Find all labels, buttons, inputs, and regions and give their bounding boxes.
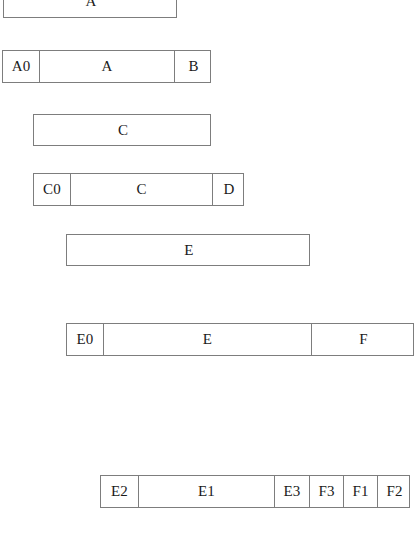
bar-segment-label: E (203, 332, 212, 347)
bar-segment-label: F2 (386, 484, 402, 499)
bar-segment-label: C0 (43, 182, 61, 197)
bar-segment-label: D (223, 182, 234, 197)
bar-segment-label: A (101, 59, 112, 74)
bar-segment-e[interactable]: E (103, 324, 311, 355)
bar-segment-label: C (118, 123, 128, 138)
bar-segment-label: B (188, 59, 198, 74)
bar-segment-a[interactable]: A (4, 0, 178, 17)
bar-segment-c[interactable]: C (70, 174, 212, 205)
bar-segment-b[interactable]: B (174, 51, 212, 82)
bar-segment-label: E0 (76, 332, 93, 347)
bar-segment-e3[interactable]: E3 (274, 476, 309, 507)
bar-segment-label: E2 (111, 484, 128, 499)
bar-segment-e[interactable]: E (67, 235, 311, 265)
bar-segment-a0[interactable]: A0 (3, 51, 39, 82)
bar-segment-e1[interactable]: E1 (138, 476, 274, 507)
row-e-whole: E (66, 234, 310, 266)
bar-segment-label: E1 (198, 484, 215, 499)
bar-segment-c0[interactable]: C0 (34, 174, 70, 205)
bar-segment-c[interactable]: C (34, 115, 212, 145)
row-c-split: C0CD (33, 173, 244, 206)
bar-segment-f2[interactable]: F2 (377, 476, 411, 507)
bar-segment-f3[interactable]: F3 (309, 476, 343, 507)
bar-segment-label: A0 (12, 59, 31, 74)
row-c-whole: C (33, 114, 211, 146)
bar-segment-e2[interactable]: E2 (101, 476, 138, 507)
bar-segment-f[interactable]: F (311, 324, 415, 355)
bar-segment-label: E (184, 243, 193, 258)
bar-segment-label: A (85, 0, 96, 9)
bar-segment-label: E3 (283, 484, 300, 499)
row-e-split: E0EF (66, 323, 414, 356)
bar-segment-d[interactable]: D (212, 174, 245, 205)
row-e-f-subsplit: E2E1E3F3F1F2 (100, 475, 410, 508)
bar-segment-e0[interactable]: E0 (67, 324, 103, 355)
bar-segment-f1[interactable]: F1 (343, 476, 377, 507)
row-a-split: A0AB (2, 50, 211, 83)
diagram-canvas: AA0ABCC0CDEE0EFE2E1E3F3F1F2 (0, 0, 420, 548)
bar-segment-label: F (359, 332, 368, 347)
bar-segment-a[interactable]: A (39, 51, 174, 82)
bar-segment-label: F1 (352, 484, 368, 499)
bar-segment-label: F3 (318, 484, 334, 499)
bar-segment-label: C (136, 182, 146, 197)
row-a-whole: A (3, 0, 177, 18)
